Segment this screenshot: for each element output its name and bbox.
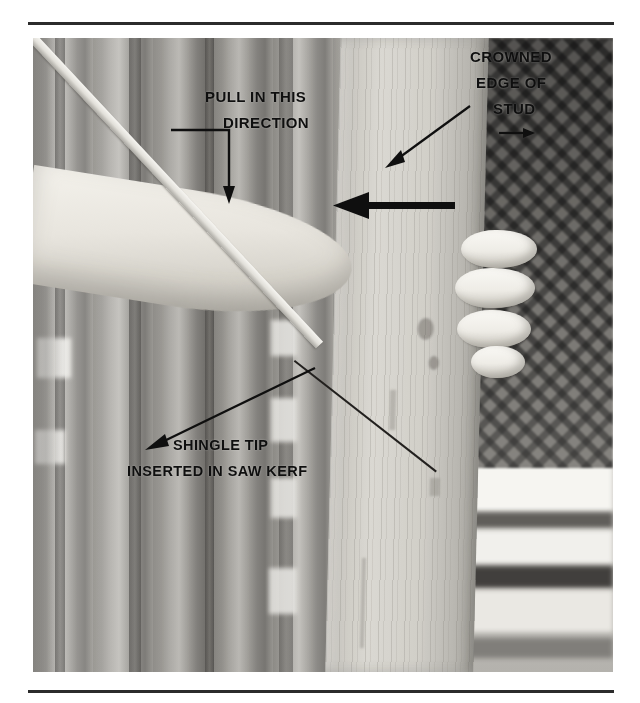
finger-index [461, 230, 537, 268]
finger-middle [455, 268, 535, 308]
crowned-edge-label-line1: CROWNED [470, 48, 552, 66]
shingle-tip-label-line1: SHINGLE TIP [173, 436, 268, 454]
bottom-rule [28, 690, 614, 693]
hand-gripping-stud [461, 230, 543, 380]
crowned-edge-label-line3: STUD [493, 100, 535, 118]
pull-direction-label-line1: PULL IN THIS [205, 88, 306, 106]
crowned-edge-label-line2: EDGE OF [476, 74, 546, 92]
fence-boards-background [33, 38, 363, 672]
pull-direction-label-line2: DIRECTION [223, 114, 309, 132]
figure-photo: PULL IN THIS DIRECTION CROWNED EDGE OF S… [33, 38, 613, 672]
shingle-tip-label-line2: INSERTED IN SAW KERF [127, 462, 307, 480]
top-rule [28, 22, 614, 25]
finger-pinky [471, 346, 525, 378]
finger-ring [457, 310, 531, 348]
